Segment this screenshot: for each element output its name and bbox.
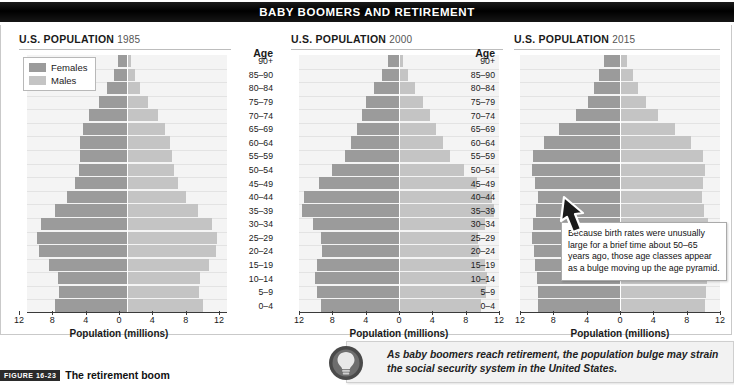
age-group-label: 10–14: [471, 274, 495, 284]
bar-females: [304, 191, 399, 203]
bar-males: [399, 286, 486, 298]
age-group-label: 60–64: [471, 138, 495, 148]
bar-females: [535, 177, 620, 189]
bar-males: [399, 177, 477, 189]
bar-females: [302, 204, 399, 216]
age-group-label: 45–49: [249, 179, 273, 189]
bar-females: [345, 150, 399, 162]
bar-males: [399, 136, 443, 148]
x-tick-label: 0: [116, 315, 121, 325]
age-group-label: 55–59: [471, 151, 495, 161]
age-group-label: 35–39: [249, 206, 273, 216]
age-group-label: 55–59: [249, 151, 273, 161]
panel-title-text: U.S. POPULATION: [19, 33, 114, 45]
age-group-label: 20–24: [249, 246, 273, 256]
age-group-label: 35–39: [471, 206, 495, 216]
x-axis-label-2000: Population (millions): [299, 328, 499, 339]
bar-males: [127, 150, 172, 162]
x-tick-label: 8: [50, 315, 55, 325]
x-axis-ticks-2000: 128404812: [299, 315, 499, 327]
bar-males: [399, 245, 479, 257]
bar-females: [559, 123, 620, 135]
bar-males: [127, 286, 199, 298]
figure-retirement-boom: BABY BOOMERS AND RETIREMENT U.S. POPULAT…: [0, 0, 734, 385]
bar-males: [127, 96, 148, 108]
bar-males: [399, 164, 464, 176]
x-tick-mark: [19, 311, 20, 315]
age-group-label: 25–29: [471, 233, 495, 243]
title-rule: [19, 49, 231, 50]
bar-females: [533, 150, 620, 162]
age-group-label: 15–19: [471, 260, 495, 270]
panel-2015: U.S. POPULATION2015: [504, 25, 726, 335]
bar-females: [315, 272, 399, 284]
bar-males: [620, 204, 704, 216]
bar-males: [127, 136, 170, 148]
age-group-label: 30–34: [249, 219, 273, 229]
bar-males: [127, 177, 178, 189]
bar-males: [127, 123, 165, 135]
age-group-label: 70–74: [471, 111, 495, 121]
bar-males: [127, 191, 186, 203]
bar-females: [313, 218, 399, 230]
age-group-label: 80–84: [471, 83, 495, 93]
age-group-label: 50–54: [471, 165, 495, 175]
panel-1985: U.S. POPULATION1985 Females Males: [9, 25, 237, 335]
bar-males: [127, 245, 216, 257]
x-tick-mark: [620, 311, 621, 315]
x-tick-mark: [366, 311, 367, 315]
bar-females: [83, 123, 127, 135]
bar-males: [399, 150, 450, 162]
age-group-label: 10–14: [249, 274, 273, 284]
figure-number-badge: FIGURE 16-23: [0, 370, 60, 381]
x-tick-label: 8: [463, 315, 468, 325]
x-tick-label: 8: [183, 315, 188, 325]
panel-title-year: 2000: [389, 34, 412, 45]
bar-females: [80, 136, 127, 148]
bar-males: [127, 69, 135, 81]
bar-males: [399, 123, 436, 135]
x-tick-mark: [152, 311, 153, 315]
figure-card: U.S. POPULATION1985 Females Males Age 90…: [0, 25, 732, 335]
panel-title-year: 2015: [612, 34, 635, 45]
age-group-label: 0–4: [259, 301, 274, 311]
title-rule: [514, 49, 720, 50]
x-tick-label: 12: [515, 315, 525, 325]
bar-females: [80, 150, 128, 162]
bar-females: [118, 55, 127, 67]
legend-row-males: Males: [29, 75, 87, 86]
x-tick-label: 12: [715, 315, 725, 325]
x-tick-mark: [399, 311, 400, 315]
bar-males: [620, 96, 646, 108]
bar-females: [58, 272, 127, 284]
legend-swatch-females-icon: [29, 63, 46, 72]
age-group-label: 5–9: [481, 287, 496, 297]
x-tick-mark: [687, 311, 688, 315]
plot-area-2000: [299, 55, 499, 313]
bar-males: [127, 218, 212, 230]
x-tick-label: 4: [430, 315, 435, 325]
x-tick-mark: [86, 311, 87, 315]
bar-females: [544, 136, 620, 148]
age-group-label: 40–44: [249, 192, 273, 202]
x-tick-label: 12: [494, 315, 504, 325]
bar-females: [55, 299, 127, 311]
bar-females: [89, 109, 127, 121]
age-group-label: 5–9: [259, 287, 274, 297]
x-axis-line: [27, 312, 227, 313]
age-group-label: 60–64: [249, 138, 273, 148]
age-group-label: 25–29: [249, 233, 273, 243]
bar-males: [620, 123, 675, 135]
bar-females: [67, 191, 127, 203]
x-tick-mark: [432, 311, 433, 315]
bar-males: [620, 136, 691, 148]
age-group-label: 45–49: [471, 179, 495, 189]
legend-label-females: Females: [51, 62, 87, 73]
bar-females: [49, 259, 127, 271]
age-group-label: 75–79: [249, 97, 273, 107]
age-group-label: 65–69: [249, 124, 273, 134]
panel-title-2015: U.S. POPULATION2015: [514, 33, 635, 45]
age-group-label: 85–90: [471, 70, 495, 80]
bar-males: [399, 299, 481, 311]
x-tick-mark: [587, 311, 588, 315]
